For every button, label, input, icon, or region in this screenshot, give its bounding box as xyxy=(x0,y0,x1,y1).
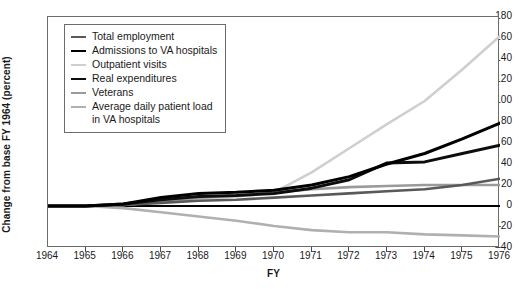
legend-item: Total employment xyxy=(71,30,217,43)
legend: Total employmentAdmissions to VA hospita… xyxy=(64,24,226,133)
x-axis-label: FY xyxy=(239,268,280,279)
series-line xyxy=(48,206,500,236)
legend-swatch-line-icon xyxy=(71,92,86,94)
legend-label: Average daily patient load in VA hospita… xyxy=(92,100,213,126)
legend-item: Veterans xyxy=(71,86,217,99)
legend-item: Real expenditures xyxy=(71,72,217,85)
legend-label: Veterans xyxy=(92,86,133,99)
y-axis-label: Change from base FY 1964 (percent) xyxy=(0,0,14,289)
legend-label: Admissions to VA hospitals xyxy=(92,44,217,57)
legend-label: Real expenditures xyxy=(92,72,177,85)
chart-figure: Change from base FY 1964 (percent) 18016… xyxy=(0,0,519,289)
x-axis-label-wrap: FY xyxy=(0,268,519,279)
legend-item: Average daily patient load in VA hospita… xyxy=(71,100,217,126)
legend-swatch-line-icon xyxy=(71,50,86,52)
legend-swatch-line-icon xyxy=(71,106,86,108)
legend-label: Total employment xyxy=(92,30,174,43)
legend-item: Admissions to VA hospitals xyxy=(71,44,217,57)
legend-swatch-line-icon xyxy=(71,64,86,66)
legend-swatch-line-icon xyxy=(71,36,86,38)
legend-item: Outpatient visits xyxy=(71,58,217,71)
legend-swatch-line-icon xyxy=(71,78,86,80)
x-tick-label: 1976 xyxy=(469,250,519,261)
legend-label: Outpatient visits xyxy=(92,58,167,71)
